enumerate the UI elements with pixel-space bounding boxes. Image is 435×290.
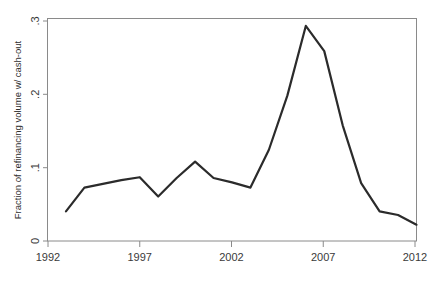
y-tick-label-2: .2 — [29, 90, 41, 99]
y-tick-label-3: .3 — [29, 16, 41, 25]
x-tick-label-2012: 2012 — [403, 251, 427, 263]
y-tick-label-0: 0 — [29, 238, 41, 244]
chart-figure: 0 .1 .2 .3 Fraction of refinancing volum… — [0, 0, 435, 290]
y-tick-label-1: .1 — [29, 163, 41, 172]
x-tick-label-1992: 1992 — [36, 251, 60, 263]
plot-frame — [48, 19, 417, 242]
x-tick-label-2002: 2002 — [219, 251, 243, 263]
y-axis-title: Fraction of refinancing volume w/ cash-o… — [12, 40, 23, 219]
x-tick-label-1997: 1997 — [128, 251, 152, 263]
y-axis-ticks — [43, 21, 48, 241]
x-axis-ticks — [48, 241, 415, 247]
x-axis-tick-labels: 1992 1997 2002 2007 2012 — [36, 251, 427, 263]
x-tick-label-2007: 2007 — [311, 251, 335, 263]
line-chart: 0 .1 .2 .3 Fraction of refinancing volum… — [0, 0, 435, 290]
y-axis-tick-labels: 0 .1 .2 .3 — [29, 16, 41, 244]
